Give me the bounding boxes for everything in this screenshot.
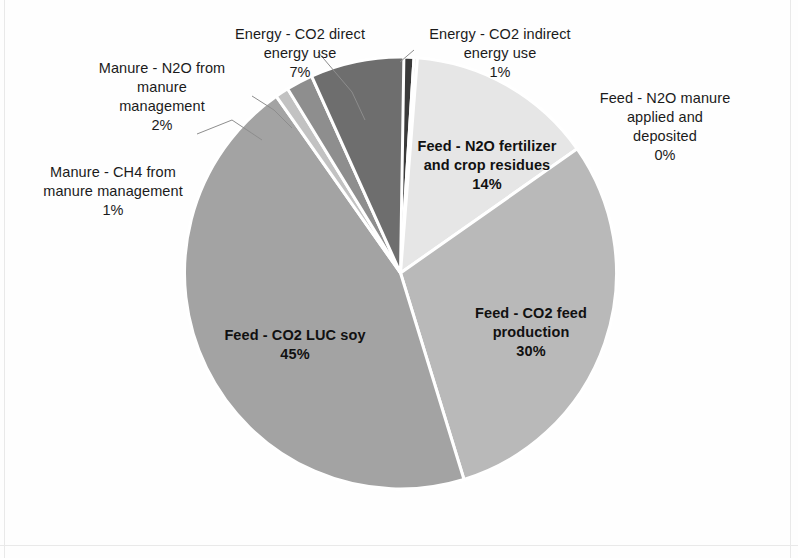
- slice-label-percent: 45%: [200, 345, 390, 364]
- slice-label-feed-n2o-fertilizer-and-crop-residues: Feed - N2O fertilizer and crop residues …: [392, 118, 582, 213]
- slice-label-name: Manure - N2O from manure management: [99, 60, 226, 114]
- slice-label-percent: 1%: [408, 63, 592, 82]
- slice-label-name: Feed - N2O fertilizer and crop residues: [417, 138, 556, 173]
- slice-label-energy-co2-indirect-energy-use: Energy - CO2 indirect energy use 1%: [408, 6, 592, 101]
- slice-label-manure-n2o-from-manure-management: Manure - N2O from manure management 2%: [76, 40, 248, 154]
- slice-label-percent: 30%: [448, 342, 614, 361]
- slice-label-name: Feed - CO2 feed production: [475, 305, 587, 340]
- slice-label-name: Manure - CH4 from manure management: [43, 164, 183, 199]
- slice-label-feed-n2o-manure-applied-and-deposited: Feed - N2O manure applied and deposited …: [570, 70, 760, 184]
- slice-label-percent: 0%: [570, 146, 760, 165]
- slice-label-manure-ch4-from-manure-management: Manure - CH4 from manure management 1%: [6, 144, 220, 239]
- pie-chart-page: Energy - CO2 direct energy use 7% Energy…: [0, 0, 798, 558]
- slice-label-percent: 2%: [76, 116, 248, 135]
- slice-label-name: Energy - CO2 indirect energy use: [429, 26, 571, 61]
- slice-label-percent: 1%: [6, 201, 220, 220]
- slice-label-name: Feed - N2O manure applied and deposited: [600, 90, 731, 144]
- slice-label-feed-co2-luc-soy: Feed - CO2 LUC soy 45%: [200, 307, 390, 383]
- slice-label-name: Feed - CO2 LUC soy: [224, 327, 365, 343]
- slice-label-name: Energy - CO2 direct energy use: [235, 26, 365, 61]
- slice-label-feed-co2-feed-production: Feed - CO2 feed production 30%: [448, 285, 614, 380]
- slice-label-percent: 14%: [392, 175, 582, 194]
